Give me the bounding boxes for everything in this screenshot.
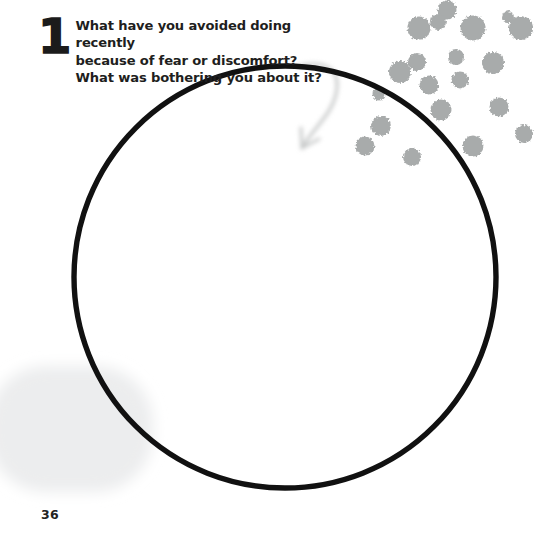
splatter-dot bbox=[515, 125, 533, 143]
splatter-dot bbox=[452, 72, 469, 89]
question-prompt: 1 What have you avoided doing recently b… bbox=[38, 12, 338, 86]
splatter-dot bbox=[509, 16, 533, 40]
splatter-dot bbox=[431, 100, 452, 121]
splatter-dot bbox=[482, 52, 504, 74]
splatter-dot bbox=[389, 61, 411, 83]
splatter-dot bbox=[502, 11, 514, 23]
page-number: 36 bbox=[41, 507, 59, 522]
splatter-dot bbox=[420, 76, 439, 95]
splatter-dot bbox=[408, 17, 431, 40]
question-text: What have you avoided doing recently bec… bbox=[76, 12, 338, 86]
splatter-dot bbox=[448, 49, 464, 65]
splatter-dot bbox=[430, 14, 446, 30]
answer-writing-area[interactable] bbox=[108, 120, 464, 438]
splatter-dot bbox=[463, 136, 484, 157]
question-number: 1 bbox=[38, 14, 76, 58]
splatter-dot bbox=[438, 1, 457, 20]
splatter-dot bbox=[490, 98, 509, 117]
splatter-dot bbox=[408, 53, 426, 71]
worksheet-page: 1 What have you avoided doing recently b… bbox=[0, 0, 536, 552]
splatter-dot bbox=[373, 88, 386, 101]
splatter-dot bbox=[461, 16, 486, 41]
